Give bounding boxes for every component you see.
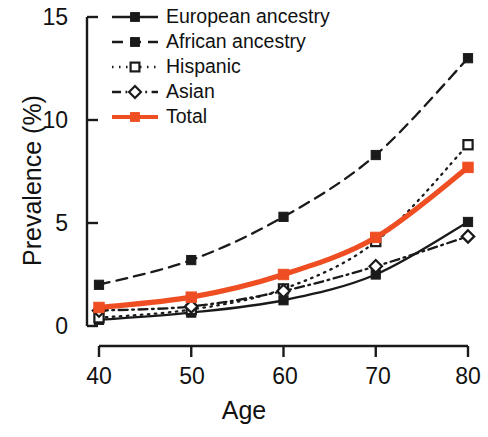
legend-label-african-ancestry: African ancestry bbox=[166, 32, 306, 52]
data-point-marker bbox=[463, 162, 473, 172]
y-tick-label-15: 15 bbox=[8, 4, 68, 31]
x-tick-label-60: 60 bbox=[255, 363, 315, 390]
data-point-marker bbox=[131, 63, 140, 72]
data-point-marker bbox=[463, 217, 472, 226]
legend-label-european-ancestry: European ancestry bbox=[166, 7, 330, 27]
data-point-marker bbox=[186, 292, 196, 302]
data-point-marker bbox=[371, 150, 380, 159]
x-axis-ticks bbox=[99, 346, 468, 357]
data-point-marker bbox=[94, 280, 103, 289]
legend-sample-asian bbox=[112, 86, 158, 98]
y-tick-label-0: 0 bbox=[8, 313, 68, 340]
legend-sample-hispanic bbox=[112, 63, 158, 72]
data-series-group bbox=[93, 54, 474, 325]
data-point-marker bbox=[187, 255, 196, 264]
data-point-marker bbox=[463, 54, 472, 63]
data-point-marker bbox=[278, 269, 288, 279]
legend-sample-european-ancestry bbox=[112, 13, 158, 22]
x-tick-label-40: 40 bbox=[69, 363, 129, 390]
legend-samples-group bbox=[112, 13, 158, 122]
x-tick-label-80: 80 bbox=[438, 363, 488, 390]
legend-sample-african-ancestry bbox=[112, 38, 158, 47]
prevalence-by-age-chart: Prevalence (%) Age 15 10 5 0 40 50 60 70… bbox=[0, 0, 488, 437]
data-point-marker bbox=[371, 232, 381, 242]
data-point-marker bbox=[463, 140, 472, 149]
legend-label-total: Total bbox=[166, 107, 207, 127]
data-point-marker bbox=[131, 13, 140, 22]
data-point-marker bbox=[279, 212, 288, 221]
y-axis-ticks bbox=[87, 17, 98, 326]
data-point-marker bbox=[462, 230, 474, 242]
data-point-marker bbox=[131, 38, 140, 47]
data-point-marker bbox=[131, 113, 140, 122]
data-point-marker bbox=[129, 86, 141, 98]
legend-label-hispanic: Hispanic bbox=[166, 57, 241, 77]
y-tick-label-10: 10 bbox=[8, 107, 68, 134]
x-tick-label-50: 50 bbox=[162, 363, 222, 390]
data-point-marker bbox=[94, 302, 104, 312]
y-tick-label-5: 5 bbox=[8, 210, 68, 237]
x-axis-title: Age bbox=[0, 396, 488, 425]
legend-sample-total bbox=[112, 113, 158, 122]
legend-label-asian: Asian bbox=[166, 82, 215, 102]
x-tick-label-70: 70 bbox=[348, 363, 408, 390]
